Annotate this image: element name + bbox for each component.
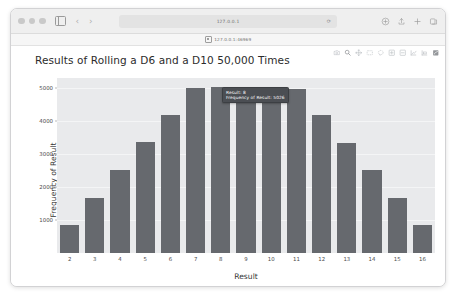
bar-cell[interactable] [284, 78, 309, 253]
toolbar-right-actions [381, 17, 438, 26]
x-axis-title: Result [57, 272, 435, 281]
tooltip-frequency: Frequency of Result: 5026 [226, 95, 285, 100]
share-icon[interactable] [381, 17, 390, 26]
bar-cell[interactable] [183, 78, 208, 253]
address-bar[interactable]: 127.0.0.1 ⟳ [119, 15, 337, 28]
window-controls[interactable] [18, 18, 46, 25]
x-tick-label: 13 [334, 253, 359, 262]
x-tick-label: 6 [158, 253, 183, 262]
bar[interactable] [85, 198, 104, 253]
camera-icon[interactable] [333, 49, 341, 57]
minimize-window-button[interactable] [29, 18, 36, 25]
autoscale-icon[interactable] [410, 49, 418, 57]
box-select-icon[interactable] [366, 49, 374, 57]
page-content: Results of Rolling a D6 and a D10 50,000… [11, 46, 445, 287]
x-tick-label: 4 [107, 253, 132, 262]
plot-container: Frequency of Result 10002000300040005000… [11, 72, 445, 287]
close-window-button[interactable] [18, 18, 25, 25]
y-tick-mark [55, 219, 58, 220]
y-tick-mark [55, 87, 58, 88]
x-tick-label: 7 [183, 253, 208, 262]
zoom-icon[interactable] [344, 49, 352, 57]
bar[interactable] [262, 89, 281, 253]
bar[interactable] [211, 87, 230, 253]
favicon-icon [205, 36, 212, 43]
bar[interactable] [287, 89, 306, 253]
tab-overview-icon[interactable] [429, 17, 438, 26]
bar[interactable] [388, 198, 407, 253]
browser-toolbar: ‹ › 127.0.0.1 ⟳ [11, 9, 445, 34]
y-tick-label: 5000 [39, 85, 53, 91]
upload-icon[interactable] [397, 17, 406, 26]
bar[interactable] [337, 143, 356, 253]
bar[interactable] [186, 88, 205, 253]
x-tick-label: 15 [385, 253, 410, 262]
bar-cell[interactable] [385, 78, 410, 253]
lasso-select-icon[interactable] [377, 49, 385, 57]
bar-cell[interactable] [334, 78, 359, 253]
bar-cell[interactable] [133, 78, 158, 253]
bar-cell[interactable] [107, 78, 132, 253]
x-tick-label: 12 [309, 253, 334, 262]
y-tick-mark [55, 153, 58, 154]
sidebar-toggle-button[interactable] [55, 16, 66, 26]
hover-tooltip: Result: 8 Frequency of Result: 5026 [222, 87, 289, 103]
y-tick-label: 2000 [39, 184, 53, 190]
bar-cell[interactable] [233, 78, 258, 253]
new-tab-icon[interactable] [413, 17, 422, 26]
bar-cell[interactable] [309, 78, 334, 253]
bar-cell[interactable] [57, 78, 82, 253]
x-tick-label: 8 [208, 253, 233, 262]
url-text: 127.0.0.1 [217, 19, 240, 24]
maximize-window-button[interactable] [39, 18, 46, 25]
bar-cell[interactable] [259, 78, 284, 253]
reset-axes-icon[interactable] [421, 49, 429, 57]
back-button[interactable]: ‹ [76, 17, 80, 26]
bar[interactable] [413, 225, 432, 253]
y-tick-label: 4000 [39, 118, 53, 124]
bar-cell[interactable] [82, 78, 107, 253]
x-tick-label: 2 [57, 253, 82, 262]
x-tick-label: 11 [284, 253, 309, 262]
x-tick-label: 5 [133, 253, 158, 262]
bar-cell[interactable] [208, 78, 233, 253]
bar-cell[interactable] [158, 78, 183, 253]
navigation-buttons[interactable]: ‹ › [76, 17, 93, 26]
y-tick-mark [55, 120, 58, 121]
y-tick-label: 1000 [39, 217, 53, 223]
x-tick-label: 14 [359, 253, 384, 262]
y-tick-mark [55, 186, 58, 187]
browser-window: ‹ › 127.0.0.1 ⟳ [10, 8, 446, 287]
bar[interactable] [60, 225, 79, 253]
bar-cell[interactable] [410, 78, 435, 253]
chart-title: Results of Rolling a D6 and a D10 50,000… [35, 54, 290, 66]
zoom-in-icon[interactable] [388, 49, 396, 57]
x-tick-label: 16 [410, 253, 435, 262]
bar-series [57, 78, 435, 253]
x-tick-label: 10 [259, 253, 284, 262]
x-axis-ticks: 2345678910111213141516 [57, 253, 435, 262]
y-tick-label: 3000 [39, 151, 53, 157]
bar[interactable] [312, 115, 331, 253]
reload-button[interactable]: ⟳ [327, 18, 331, 24]
bar[interactable] [236, 89, 255, 253]
bar[interactable] [362, 170, 381, 253]
bar-cell[interactable] [359, 78, 384, 253]
sidebar-icon [55, 16, 66, 26]
pan-icon[interactable] [355, 49, 363, 57]
plot-area[interactable]: 10002000300040005000 Result: 8 Frequency… [57, 78, 435, 253]
plotly-modebar [333, 49, 439, 57]
bookmarks-bar: 127.0.0.1:46969 [11, 34, 445, 46]
bar[interactable] [161, 115, 180, 253]
zoom-out-icon[interactable] [399, 49, 407, 57]
x-tick-label: 9 [233, 253, 258, 262]
forward-button[interactable]: › [89, 17, 93, 26]
tooltip-result: Result: 8 [226, 90, 285, 95]
bar[interactable] [136, 142, 155, 253]
bookmark-item[interactable]: 127.0.0.1:46969 [214, 37, 251, 42]
bar[interactable] [110, 170, 129, 253]
plotly-logo-icon[interactable] [432, 49, 440, 57]
x-tick-label: 3 [82, 253, 107, 262]
